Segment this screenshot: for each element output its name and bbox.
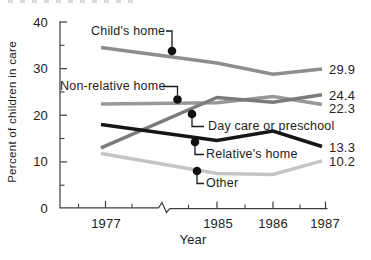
x-tick-label-1985: 1985	[196, 217, 240, 230]
series-label-childs-home: Child's home	[91, 25, 165, 38]
x-axis-title: Year	[163, 232, 223, 247]
series-label-non-relative-home: Non-relative home	[60, 80, 166, 93]
end-value-non-relative-home: 22.3	[329, 102, 363, 115]
series-label-day-care: Day care or preschool	[208, 120, 334, 133]
x-tick-label-1986: 1986	[251, 217, 295, 230]
callout-dot-childs-home	[168, 47, 177, 56]
y-tick-label-0: 0	[18, 202, 48, 215]
y-tick-label-40: 40	[18, 16, 48, 29]
end-value-other: 10.2	[329, 155, 363, 168]
end-value-relatives-home: 13.3	[329, 141, 363, 154]
callout-dot-relatives-home	[191, 138, 200, 147]
series-label-relatives-home: Relative's home	[206, 148, 298, 161]
end-value-day-care: 24.4	[329, 89, 363, 102]
x-axis-break-icon	[159, 203, 170, 213]
y-tick-label-10: 10	[18, 155, 48, 168]
callout-dot-non-relative-home	[173, 95, 182, 104]
series-label-other: Other	[206, 177, 238, 190]
callout-dot-other	[193, 167, 202, 176]
x-tick-label-1987: 1987	[303, 217, 347, 230]
end-value-childs-home: 29.9	[329, 63, 363, 76]
callout-connector-childs-home	[166, 31, 172, 47]
callout-connector-other	[197, 175, 204, 184]
y-tick-label-30: 30	[18, 62, 48, 75]
series-line-child-s-home	[101, 48, 322, 75]
y-tick-label-20: 20	[18, 109, 48, 122]
callout-connector-day-care-or-preschool	[192, 118, 204, 127]
callout-connector-relatives-home	[195, 146, 204, 155]
child-care-line-chart: 40 30 20 10 0 1977 1985 1986 1987 Percen…	[0, 0, 371, 260]
x-tick-label-1977: 1977	[84, 217, 128, 230]
callout-dot-day-care-or-preschool	[188, 110, 197, 119]
y-axis-title: Percent of children in care	[6, 22, 20, 202]
